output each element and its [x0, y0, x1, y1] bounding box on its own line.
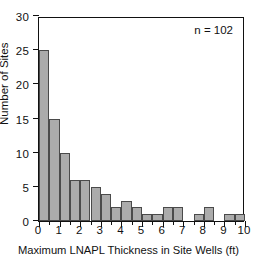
x-axis-tick-label: 5 — [138, 224, 144, 236]
histogram-bar — [163, 207, 173, 221]
histogram-bar — [173, 207, 183, 221]
histogram-bar — [204, 207, 214, 221]
histogram-bar — [224, 214, 234, 221]
histogram-bar — [39, 50, 49, 221]
histogram-bar — [60, 153, 70, 221]
x-axis-tick-label: 0 — [35, 224, 41, 236]
histogram-bar — [132, 207, 142, 221]
histogram-bar — [101, 194, 111, 221]
histogram-bar — [80, 180, 90, 221]
y-axis-tick-label: 30 — [16, 11, 29, 23]
x-axis-minor-tick — [111, 221, 112, 225]
x-axis-minor-tick — [91, 221, 92, 225]
x-axis-tick-label: 9 — [220, 224, 226, 236]
y-axis-tick — [33, 15, 39, 16]
y-axis-tick — [33, 186, 39, 187]
x-axis-minor-tick — [235, 221, 236, 225]
y-axis-tick-label: 5 — [22, 182, 29, 194]
histogram-bar — [91, 187, 101, 221]
histogram-bar — [235, 214, 245, 221]
x-axis-minor-tick — [49, 221, 50, 225]
y-axis-tick-label: 10 — [16, 148, 29, 160]
histogram-figure: Number of Sites 051015202530 n = 102 Max… — [0, 0, 257, 266]
histogram-bar — [111, 207, 121, 221]
x-axis-tick-label: 8 — [200, 224, 206, 236]
x-axis-minor-tick — [152, 221, 153, 225]
y-axis-tick — [33, 118, 39, 119]
x-axis-minor-tick — [173, 221, 174, 225]
x-axis-minor-tick — [214, 221, 215, 225]
plot-area: n = 102 — [38, 17, 244, 222]
histogram-bar — [70, 180, 80, 221]
y-axis-tick — [33, 83, 39, 84]
x-axis-tick-label: 10 — [238, 224, 251, 236]
histogram-bar — [152, 214, 162, 221]
y-axis-tick-label: 25 — [16, 45, 29, 57]
x-axis-tick-label: 1 — [55, 224, 61, 236]
x-axis-tick-label: 2 — [76, 224, 82, 236]
bar-series — [39, 18, 243, 221]
x-axis-title: Maximum LNAPL Thickness in Site Wells (f… — [0, 244, 257, 256]
histogram-bar — [49, 119, 59, 222]
x-axis-tick-label: 7 — [179, 224, 185, 236]
y-axis-tick-label: 15 — [16, 114, 29, 126]
y-axis-tick-label: 20 — [16, 79, 29, 91]
x-axis-minor-tick — [70, 221, 71, 225]
x-axis-tick-label: 4 — [117, 224, 123, 236]
histogram-bar — [194, 214, 204, 221]
x-axis-minor-tick — [132, 221, 133, 225]
y-axis-tick — [33, 152, 39, 153]
y-axis-title: Number of Sites — [0, 43, 10, 125]
histogram-bar — [142, 214, 152, 221]
x-axis-minor-tick — [194, 221, 195, 225]
histogram-bar — [121, 201, 131, 222]
y-axis-tick-label: 0 — [22, 216, 29, 228]
x-axis-tick-label: 3 — [97, 224, 103, 236]
x-axis-tick-label: 6 — [158, 224, 164, 236]
y-axis-tick — [33, 49, 39, 50]
